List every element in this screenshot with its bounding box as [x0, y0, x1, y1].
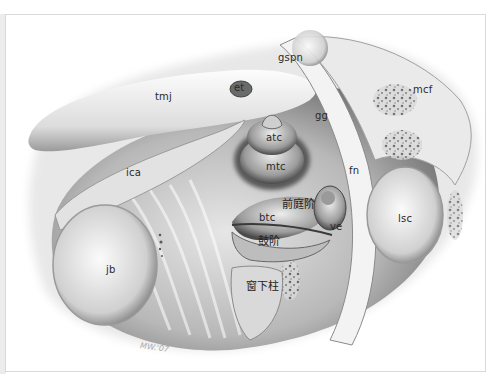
porous-bone-5: [447, 190, 463, 240]
label-scala-tympani: 鼓阶: [258, 236, 280, 247]
label-gg: gg: [315, 111, 328, 121]
label-fn: fn: [349, 166, 359, 176]
label-subiculum: 窗下柱: [246, 281, 280, 292]
label-et: et: [234, 83, 244, 93]
porous-bone-1: [373, 84, 417, 116]
label-btc: btc: [259, 213, 275, 223]
label-ica: ica: [126, 168, 141, 178]
label-lsc: lsc: [398, 214, 412, 224]
label-mcf: mcf: [413, 85, 432, 95]
label-mtc: mtc: [266, 162, 286, 172]
jugular-bulb: [53, 205, 157, 325]
label-gspn: gspn: [278, 53, 303, 63]
temporal-bone-illustration: [0, 0, 500, 389]
label-jb: jb: [106, 265, 116, 275]
porous-bone-2: [382, 130, 422, 160]
label-atc: atc: [266, 133, 282, 143]
label-ve: ve: [330, 222, 342, 232]
label-scala-vestibuli: 前庭阶: [282, 199, 316, 210]
oval-window: [321, 191, 335, 205]
label-tmj: tmj: [155, 92, 172, 102]
